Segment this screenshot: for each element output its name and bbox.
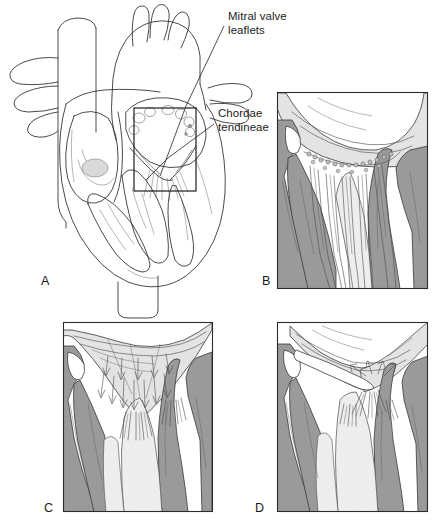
panel-d-illustration <box>277 322 428 512</box>
panel-c-illustration <box>63 322 213 512</box>
panel-letter-a: A <box>41 274 50 288</box>
callout-mitral-line2: leaflets <box>228 24 265 36</box>
panel-letter-d: D <box>255 501 264 515</box>
figure-root: Mitral valve leaflets Chordae tendineae <box>0 0 440 522</box>
callout-chordae-line2: tendineae <box>218 121 269 133</box>
panel-letter-c: C <box>44 501 53 515</box>
panel-letter-b: B <box>262 274 271 288</box>
panel-b-illustration <box>277 92 428 289</box>
callout-chordae-line1: Chordae <box>218 107 262 119</box>
mitral-valve-figure: Mitral valve leaflets Chordae tendineae <box>0 0 440 522</box>
callout-mitral-line1: Mitral valve <box>228 10 287 22</box>
